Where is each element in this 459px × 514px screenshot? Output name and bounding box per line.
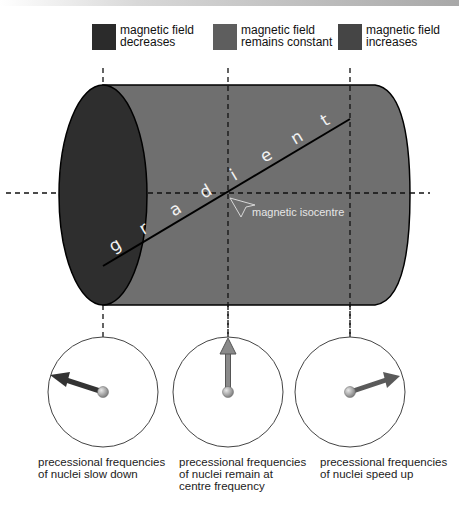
pivot-ball [345,387,356,398]
isocentre-label: magnetic isocentre [252,206,344,218]
pivot-ball [98,387,109,398]
cylinder-body [103,85,410,305]
clock-fast [295,337,405,447]
clock-slow [48,337,158,447]
caption-slow: precessional frequencies of nuclei slow … [38,456,165,480]
pivot-ball [223,387,234,398]
caption-constant: precessional frequencies of nuclei remai… [179,456,306,492]
diagram-canvas: gradient magnetic isocentre [0,0,459,514]
caption-fast: precessional frequencies of nuclei speed… [320,456,447,480]
clock-constant [173,337,283,447]
cylinder-end-face [59,85,147,305]
